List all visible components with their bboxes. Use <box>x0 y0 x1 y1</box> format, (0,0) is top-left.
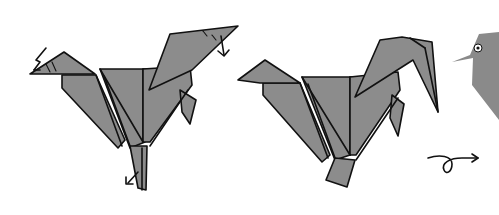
origami-diagram <box>0 0 499 215</box>
figure-2-folded-rooster <box>238 37 438 187</box>
back-flap <box>180 90 196 124</box>
turn-over-symbol-icon <box>428 154 478 172</box>
figure-1-rooster-with-arrows <box>30 26 238 190</box>
figure-3-finished-bird <box>452 32 499 120</box>
back-flap <box>390 95 404 136</box>
tail-flap <box>149 26 238 90</box>
foot <box>326 158 355 187</box>
head-triangle <box>238 60 300 83</box>
